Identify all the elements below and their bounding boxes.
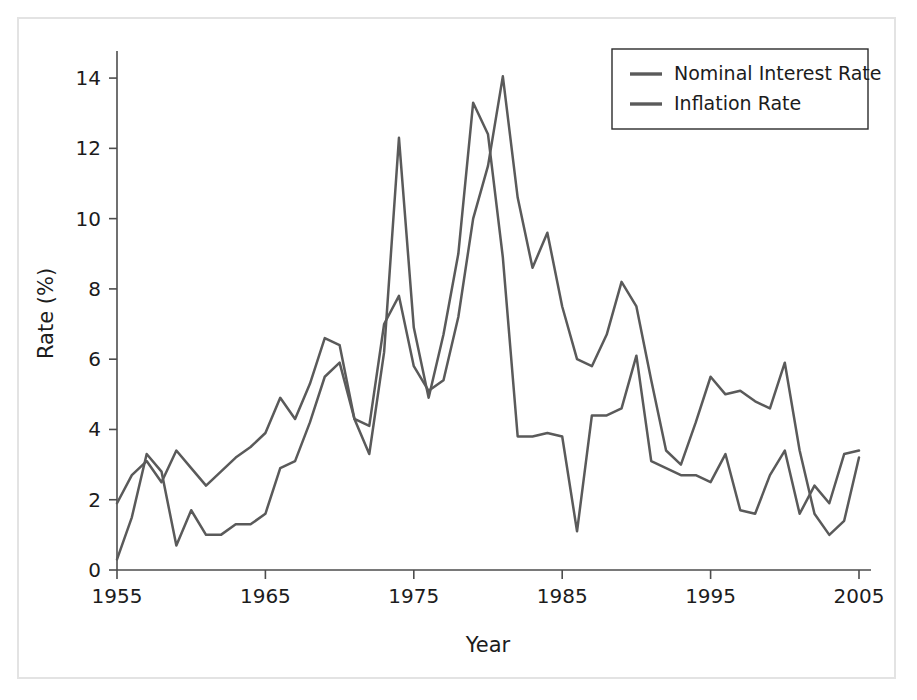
y-tick-label: 8 [88,277,101,301]
x-tick-label: 1975 [388,584,439,608]
chart-legend[interactable]: Nominal Interest RateInflation Rate [612,49,881,129]
legend-label-2: Inflation Rate [674,92,801,114]
y-tick-label: 2 [88,488,101,512]
x-tick-label: 1995 [685,584,736,608]
figure-frame: 02468101214195519651975198519952005 Year… [17,17,896,679]
y-axis-title: Rate (%) [34,268,58,359]
x-axis-title: Year [465,633,511,657]
x-tick-label: 1955 [92,584,143,608]
y-tick-label: 12 [76,136,101,160]
axes: 02468101214195519651975198519952005 [76,51,885,608]
series-line-1 [117,76,859,535]
y-tick-label: 6 [88,347,101,371]
figure-page: 02468101214195519651975198519952005 Year… [0,0,917,700]
x-tick-label: 2005 [834,584,885,608]
legend-label-1: Nominal Interest Rate [674,62,881,84]
y-tick-label: 4 [88,417,101,441]
y-tick-label: 0 [88,558,101,582]
x-tick-label: 1965 [240,584,291,608]
y-tick-label: 14 [76,66,101,90]
series-line-2 [117,103,859,560]
line-chart: 02468101214195519651975198519952005 Year… [19,19,894,677]
x-tick-label: 1985 [537,584,588,608]
series-lines [117,76,859,559]
y-tick-label: 10 [76,207,101,231]
